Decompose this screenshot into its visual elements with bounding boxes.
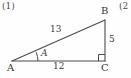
vertex-label-a: A [7,63,14,73]
angle-arc-marker-icon [36,52,38,61]
side-length-label-bc: 5 [109,35,115,44]
side-length-label-ac: 12 [53,62,64,71]
problem-number-right: (2 [119,2,128,11]
side-length-label-ab: 13 [50,25,61,34]
angle-label-a: A [41,49,48,58]
vertex-label-c: C [101,63,109,73]
right-angle-marker-icon [99,55,106,62]
geometry-figure: (1) (2 A B C 13 5 12 A [0,0,131,78]
vertex-label-b: B [101,6,108,16]
problem-number-left: (1) [2,2,15,11]
